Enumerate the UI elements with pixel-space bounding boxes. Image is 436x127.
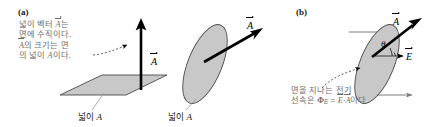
callout-b-leader xyxy=(322,68,360,88)
electric-flux-figure: (a) (b) xyxy=(0,0,436,127)
plane-surface xyxy=(60,75,167,95)
vector-a-label-flux: A xyxy=(393,16,399,27)
plane-area-leader xyxy=(92,93,104,110)
callout-a-line-2: 면에 수직이다. xyxy=(19,30,72,39)
panel-a-ellipse-group xyxy=(174,19,263,110)
theta-angle-label: θ xyxy=(381,39,385,49)
vector-a-label-plane: A xyxy=(151,56,157,67)
plane-area-label: 넓이 A xyxy=(78,110,102,122)
vector-e-label-flux: E xyxy=(406,51,412,62)
callout-b-line-2: 선속은 ΦE = E·A이다. xyxy=(291,96,369,105)
vector-a-label-ellipse: A xyxy=(247,20,253,31)
callout-a-line-3: A의 크기는 면 xyxy=(19,41,69,50)
tilted-surface-ellipse xyxy=(174,19,237,110)
callout-a-text: 넓이 벡터 A는 면에 수직이다. A의 크기는 면 의 넓이 A이다. xyxy=(19,20,72,62)
callout-a-leader xyxy=(93,45,127,55)
ellipse-area-label: 넓이 A xyxy=(168,110,192,122)
callout-b-text: 면을 지나는 전기 선속은 ΦE = E·A이다. xyxy=(291,86,369,108)
callout-a-line-1: 넓이 벡터 A는 xyxy=(19,20,69,29)
callout-a-line-4: 의 넓이 A이다. xyxy=(19,51,71,60)
